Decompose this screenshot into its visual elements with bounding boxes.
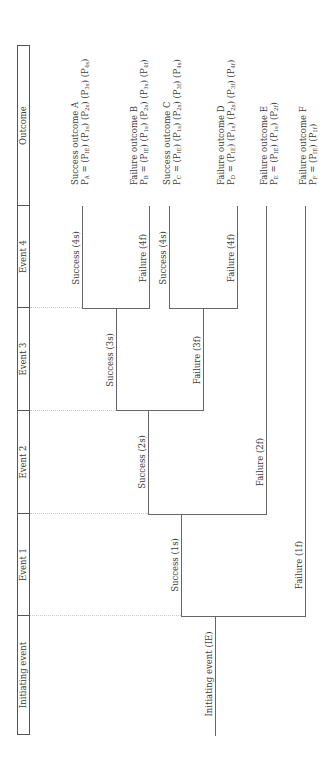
branch-3s-line [116,308,117,411]
outcome-c-formula: PC = (PIE) (P1s) (P2s) (P3f) (P4s) [172,59,184,185]
branch-1s-label: Success (1s) [170,538,180,592]
outcome-e: Failure outcome E PE = (PIE) (P1s) (P2f) [259,102,281,185]
outcome-d-formula: PD = (PIE) (P1s) (P2s) (P3f) (P4f) [226,60,238,185]
branch-4s-lower-line [169,206,170,309]
event3-connector [116,410,204,411]
guide-line-event2 [30,513,148,514]
branch-4s-upper-line [82,206,83,309]
branch-2s-label: Success (2s) [137,435,147,489]
outcome-f-formula: PF = (PIE) (P1f) [308,106,320,185]
branch-2f-label: Failure (2f) [255,438,265,486]
branch-4s-upper-label: Success (4s) [71,231,81,285]
outcome-a: Success outcome A PA = (PIE) (P1s) (P2s)… [70,59,92,185]
event4-connector-upper [82,308,150,309]
branch-4f-upper-label: Failure (4f) [138,234,148,282]
event1-connector [181,616,306,617]
header-outcome: Outcome [17,45,30,206]
header-event-1: Event 1 [17,513,30,616]
header-event-3: Event 3 [17,307,30,411]
header-event-2: Event 2 [17,410,30,514]
guide-line-event4 [30,307,82,308]
branch-3s-label: Success (3s) [105,333,115,387]
outcome-c-title: Success outcome C [162,59,172,185]
outcome-b: Failure outcome B PB = (PIE) (P1s) (P2s)… [129,59,151,185]
outcome-e-formula: PE = (PIE) (P1s) (P2f) [269,102,281,185]
outcome-a-formula: PA = (PIE) (P1s) (P2s) (P3s) (P4s) [80,59,92,185]
branch-3f-line [203,308,204,411]
outcome-f: Failure outcome F PF = (PIE) (P1f) [298,106,320,185]
header-initiating-event: Initiating event [17,615,30,735]
event4-connector-lower [169,308,238,309]
outcome-f-title: Failure outcome F [298,106,308,185]
branch-2f-line [266,206,267,515]
outcome-c: Success outcome C PC = (PIE) (P1s) (P2s)… [162,59,184,185]
outcome-e-title: Failure outcome E [259,102,269,185]
branch-1f-label: Failure (1f) [294,541,304,589]
guide-line-event1 [30,615,181,616]
branch-1f-line [305,206,306,617]
outcome-b-formula: PB = (PIE) (P1s) (P2s) (P3s) (P4f) [139,59,151,185]
header-event-4: Event 4 [17,205,30,308]
event2-connector [148,514,267,515]
guide-line-event3 [30,410,116,411]
outcome-d: Failure outcome D PD = (PIE) (P1s) (P2s)… [216,60,238,185]
branch-4f-lower-line [237,206,238,309]
branch-4s-lower-label: Success (4s) [158,231,168,285]
outcome-d-title: Failure outcome D [216,60,226,185]
outcome-b-title: Failure outcome B [129,59,139,185]
initiating-event-label: Initiating event (IE) [204,631,214,716]
branch-3f-label: Failure (3f) [192,336,202,384]
branch-2s-line [148,410,149,515]
initiating-event-line [215,616,216,736]
branch-4f-upper-line [149,206,150,309]
event-tree-diagram: Initiating event Event 1 Event 2 Event 3… [0,0,327,766]
outcome-a-title: Success outcome A [70,59,80,185]
branch-1s-line [181,514,182,617]
branch-4f-lower-label: Failure (4f) [226,234,236,282]
